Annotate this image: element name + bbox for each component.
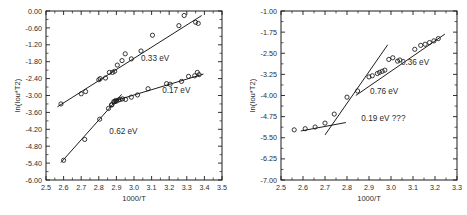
- data-point: [345, 95, 349, 99]
- y-tick-label: -4.80: [26, 142, 42, 151]
- data-point: [139, 49, 143, 53]
- y-tick-label: -3.60: [26, 108, 42, 117]
- fit-0.17eV: [117, 74, 203, 100]
- y-tick-label: 0.00: [28, 7, 42, 16]
- y-tick-label: -1.75: [261, 28, 277, 37]
- annotation-label: 0.76 eV: [370, 87, 399, 96]
- data-point: [182, 13, 186, 17]
- x-tick-label: 2.9: [111, 183, 121, 192]
- data-point: [383, 68, 387, 72]
- y-tick-label: -2.50: [261, 49, 277, 58]
- annotation-label: 0.33 eV: [141, 54, 170, 63]
- data-point: [123, 52, 127, 56]
- data-point: [413, 47, 417, 51]
- y-tick-label: -7.00: [261, 176, 277, 185]
- x-tick-label: 2.9: [364, 183, 374, 192]
- data-point: [194, 20, 198, 24]
- y-tick-label: -2.40: [26, 74, 42, 83]
- x-tick-label: 2.8: [342, 183, 352, 192]
- y-tick-label: -1.20: [26, 40, 42, 49]
- data-point: [79, 92, 83, 96]
- y-tick-label: -5.50: [261, 133, 277, 142]
- data-point: [150, 33, 154, 37]
- data-point: [115, 63, 119, 67]
- y-tick-label: -0.60: [26, 24, 42, 33]
- x-tick-label: 3.2: [430, 183, 440, 192]
- x-tick-label: 2.8: [94, 183, 104, 192]
- x-tick-label: 3.3: [452, 183, 462, 192]
- y-tick-label: -3.25: [261, 70, 277, 79]
- y-tick-label: -5.40: [26, 159, 42, 168]
- annotation-label: 0.17 eV: [162, 86, 191, 95]
- data-point: [427, 40, 431, 44]
- data-point: [292, 128, 296, 132]
- x-tick-label: 3.0: [386, 183, 396, 192]
- y-tick-label: -3.00: [26, 91, 42, 100]
- chart-panel-left: 2.52.62.72.82.93.03.13.23.33.43.50.00-0.…: [0, 0, 233, 215]
- x-tick-label: 3.1: [408, 183, 418, 192]
- data-point: [83, 137, 87, 141]
- annotation-label: 0.62 eV: [109, 127, 138, 136]
- x-tick-label: 3.3: [182, 183, 192, 192]
- left-plot-canvas: 2.52.62.72.82.93.03.13.23.33.43.50.00-0.…: [0, 0, 233, 215]
- plot-frame: [281, 11, 457, 180]
- y-tick-label: -1.80: [26, 57, 42, 66]
- data-point: [177, 24, 181, 28]
- x-axis-title: 1000/T: [122, 194, 146, 203]
- x-tick-label: 3.1: [147, 183, 157, 192]
- x-tick-label: 3.4: [199, 183, 209, 192]
- data-point: [423, 42, 427, 46]
- x-axis-title: 1000/T: [357, 194, 381, 203]
- data-point: [332, 112, 336, 116]
- data-point: [380, 69, 384, 73]
- x-tick-label: 2.6: [298, 183, 308, 192]
- data-point: [196, 21, 200, 25]
- y-tick-label: -6.25: [261, 154, 277, 163]
- y-axis-title: ln(Iou*T2): [248, 78, 257, 112]
- data-point: [186, 74, 190, 78]
- y-tick-label: -6.00: [26, 176, 42, 185]
- x-tick-label: 2.5: [41, 183, 51, 192]
- y-tick-label: -1.00: [261, 7, 277, 16]
- data-point: [391, 56, 395, 60]
- x-tick-label: 2.5: [276, 183, 286, 192]
- y-tick-label: -4.75: [261, 112, 277, 121]
- data-point: [120, 58, 124, 62]
- right-plot-canvas: 2.52.62.72.82.93.03.13.23.3-1.00-1.75-2.…: [233, 0, 467, 215]
- y-tick-label: -4.00: [261, 91, 277, 100]
- data-point: [146, 87, 150, 91]
- x-tick-label: 2.7: [76, 183, 86, 192]
- arrhenius-figure: 2.52.62.72.82.93.03.13.23.33.43.50.00-0.…: [0, 0, 467, 215]
- plot-frame: [46, 11, 222, 180]
- x-tick-label: 3.2: [164, 183, 174, 192]
- x-tick-label: 2.6: [59, 183, 69, 192]
- y-axis-title: ln(Iou*T2): [13, 78, 22, 112]
- data-point: [84, 89, 88, 93]
- annotation-label: 0.19 eV ???: [361, 114, 406, 123]
- x-tick-label: 3.0: [129, 183, 139, 192]
- x-tick-label: 2.7: [320, 183, 330, 192]
- annotation-label: 0.36 eV: [401, 58, 430, 67]
- x-tick-label: 3.5: [217, 183, 227, 192]
- y-tick-label: -4.20: [26, 125, 42, 134]
- data-point: [419, 43, 423, 47]
- data-point: [323, 121, 327, 125]
- chart-panel-right: 2.52.62.72.82.93.03.13.23.3-1.00-1.75-2.…: [233, 0, 466, 215]
